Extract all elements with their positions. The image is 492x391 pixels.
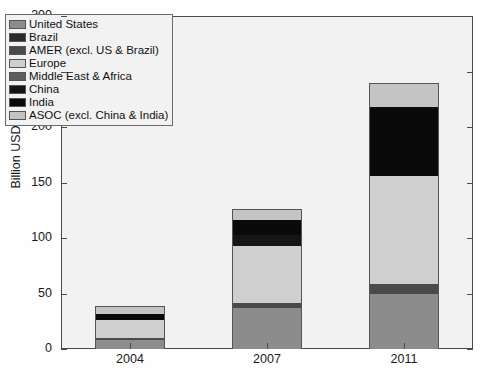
bar-segment [96, 320, 164, 338]
x-axis-tick [267, 343, 268, 349]
legend-label: Brazil [29, 32, 58, 44]
y-axis-tick [61, 183, 67, 184]
legend-item-3[interactable]: Europe [9, 57, 168, 70]
y-axis-tick [61, 238, 67, 239]
bar-segment [370, 84, 438, 107]
y-axis-tick-right [467, 16, 473, 17]
x-axis-tick-label: 2004 [90, 352, 170, 366]
legend-label: AMER (excl. US & Brazil) [29, 45, 159, 57]
legend-swatch-icon [9, 46, 26, 55]
legend-swatch-icon [9, 111, 26, 120]
y-axis-tick-right [467, 238, 473, 239]
bar-segment [233, 220, 301, 235]
legend-item-6[interactable]: India [9, 96, 168, 109]
bar-segment [370, 107, 438, 177]
legend-swatch-icon [9, 59, 26, 68]
y-axis-tick-label: 0 [8, 342, 52, 355]
legend-item-7[interactable]: ASOC (excl. China & India) [9, 109, 168, 122]
x-axis-tick [404, 343, 405, 349]
y-axis-tick-right [467, 72, 473, 73]
bar-segment [96, 307, 164, 315]
bar-segment [370, 176, 438, 283]
legend-swatch-icon [9, 20, 26, 29]
legend-label: India [29, 97, 54, 109]
bar-2007[interactable] [232, 209, 302, 349]
bar-2011[interactable] [369, 83, 439, 349]
y-axis-tick [61, 349, 67, 350]
legend-swatch-icon [9, 98, 26, 107]
bar-segment [233, 246, 301, 302]
y-axis-tick-right [467, 183, 473, 184]
y-axis-tick-label: 50 [8, 287, 52, 300]
y-axis-tick [61, 127, 67, 128]
x-axis-tick [130, 343, 131, 349]
legend-swatch-icon [9, 85, 26, 94]
legend-item-4[interactable]: Middle East & Africa [9, 70, 168, 83]
x-axis-tick-label: 2011 [364, 352, 444, 366]
legend-label: Middle East & Africa [29, 71, 132, 83]
legend-label: ASOC (excl. China & India) [29, 110, 168, 122]
legend-item-2[interactable]: AMER (excl. US & Brazil) [9, 44, 168, 57]
x-axis-tick-label: 2007 [227, 352, 307, 366]
legend-swatch-icon [9, 33, 26, 42]
y-axis-tick-right [467, 127, 473, 128]
bar-segment [370, 284, 438, 294]
bar-segment [233, 235, 301, 246]
y-axis-tick-right [467, 294, 473, 295]
y-axis-tick [61, 72, 67, 73]
legend-item-0[interactable]: United States [9, 18, 168, 31]
legend-item-1[interactable]: Brazil [9, 31, 168, 44]
chart-legend: United StatesBrazilAMER (excl. US & Braz… [5, 14, 173, 126]
y-axis-tick [61, 16, 67, 17]
y-axis-tick-right [467, 349, 473, 350]
y-axis-tick [61, 294, 67, 295]
y-axis-tick-label: 100 [8, 231, 52, 244]
bar-segment [370, 294, 438, 349]
legend-swatch-icon [9, 72, 26, 81]
legend-item-5[interactable]: China [9, 83, 168, 96]
legend-label: China [29, 84, 59, 96]
legend-label: Europe [29, 58, 66, 70]
chart-root: 050100150200250300 Billion USD United St… [0, 0, 492, 391]
bar-segment [233, 210, 301, 220]
legend-label: United States [29, 19, 98, 31]
